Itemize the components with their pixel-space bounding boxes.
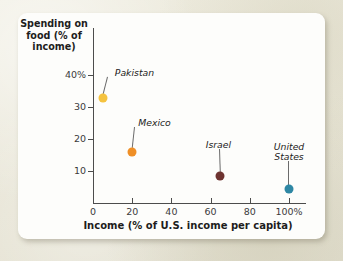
- scatter-plot: Spending on food (% of income) 10203040%…: [0, 0, 343, 261]
- x-tick-label: 100%: [269, 206, 309, 218]
- x-tick-label-text: 40: [151, 206, 191, 218]
- y-tick-label: 40%: [50, 70, 86, 80]
- data-label-united-states: United States: [257, 142, 321, 163]
- figure-root: Spending on food (% of income) 10203040%…: [0, 0, 343, 261]
- y-axis-title: Spending on food (% of income): [20, 18, 88, 53]
- data-label-israel: Israel: [186, 140, 250, 151]
- x-axis-line: [93, 203, 306, 204]
- y-axis-line: [93, 28, 94, 204]
- data-point-pakistan[interactable]: [98, 93, 107, 102]
- data-label-pakistan: Pakistan: [115, 68, 154, 79]
- x-tick-label-text: 0: [73, 206, 113, 218]
- y-axis-title-line-3: income): [32, 41, 75, 52]
- x-axis-title: Income (% of U.S. income per capita): [63, 220, 313, 231]
- y-tick-label-text: 40%: [52, 70, 86, 80]
- y-tick-mark: [88, 139, 94, 140]
- y-tick-label-text: 10: [52, 166, 86, 176]
- y-axis-title-line-1: Spending on: [20, 18, 88, 29]
- data-point-united-states[interactable]: [285, 184, 294, 193]
- y-tick-mark: [88, 75, 94, 76]
- x-tick-label: 60: [191, 206, 231, 218]
- y-tick-label: 30: [50, 102, 86, 112]
- y-tick-label: 20: [50, 134, 86, 144]
- x-tick-mark: [250, 198, 251, 204]
- x-tick-label-text: 20: [112, 206, 152, 218]
- y-tick-label-text: 30: [52, 102, 86, 112]
- y-tick-label: 10: [50, 166, 86, 176]
- x-tick-mark: [289, 198, 290, 204]
- point-leader-line: [288, 161, 289, 185]
- x-tick-mark: [211, 198, 212, 204]
- x-tick-label: 0: [73, 206, 113, 218]
- x-tick-mark: [132, 198, 133, 204]
- y-tick-mark: [88, 107, 94, 108]
- x-tick-mark: [171, 198, 172, 204]
- data-point-mexico[interactable]: [128, 147, 137, 156]
- x-tick-label: 40: [151, 206, 191, 218]
- data-label-mexico: Mexico: [138, 118, 171, 129]
- y-axis-title-line-2: food (% of: [26, 30, 82, 41]
- point-leader-line: [219, 149, 221, 172]
- x-tick-label: 80: [230, 206, 270, 218]
- data-point-israel[interactable]: [216, 171, 225, 180]
- point-leader-line: [132, 127, 135, 148]
- y-tick-mark: [88, 171, 94, 172]
- x-tick-label-text: 60: [191, 206, 231, 218]
- x-tick-label: 20: [112, 206, 152, 218]
- point-leader-line: [103, 76, 108, 93]
- x-tick-label-text: 80: [230, 206, 270, 218]
- y-tick-label-text: 20: [52, 134, 86, 144]
- x-tick-label-text: 100%: [269, 206, 309, 218]
